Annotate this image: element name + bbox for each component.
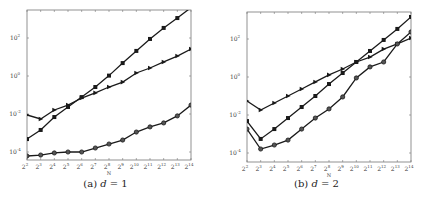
x-tick-label: 24 (49, 162, 56, 170)
circle-marker (409, 30, 413, 34)
square-marker (121, 61, 125, 65)
caption-b-label: (b) (294, 178, 311, 189)
caption-a-label: (a) (83, 178, 100, 189)
circle-marker (245, 127, 249, 131)
triangle-marker (107, 85, 112, 90)
x-tick-label: 210 (130, 162, 139, 170)
x-tick-label: 25 (283, 164, 290, 172)
series-line-circle (27, 105, 191, 156)
circle-marker (368, 65, 372, 69)
x-tick-label: 23 (35, 162, 42, 170)
square-marker (93, 85, 97, 89)
circle-marker (134, 130, 138, 134)
plot-frame (247, 12, 411, 162)
caption-b: (b) d = 2 (211, 178, 422, 189)
x-axis-label: N (107, 170, 112, 176)
x-tick-label: 27 (310, 164, 317, 172)
x-tick-label: 28 (324, 164, 331, 172)
square-marker (107, 74, 111, 78)
circle-marker (121, 138, 125, 142)
square-marker (286, 116, 290, 120)
square-marker (162, 26, 166, 30)
circle-marker (66, 150, 70, 154)
caption-a-value: = 1 (107, 178, 128, 189)
triangle-marker (327, 73, 332, 78)
y-tick-label: 10-4 (9, 147, 21, 155)
y-tick-label: 102 (230, 34, 241, 42)
x-tick-label: 29 (117, 162, 124, 170)
x-tick-label: 26 (296, 164, 303, 172)
triangle-marker (148, 66, 153, 71)
square-marker (189, 6, 193, 10)
circle-marker (39, 153, 43, 157)
chart-panel-a: 2223242526272829210211212213214N10210010… (0, 0, 211, 197)
square-marker (313, 94, 317, 98)
circle-marker (272, 143, 276, 147)
x-tick-label: 28 (104, 162, 111, 170)
circle-marker (107, 142, 111, 146)
square-marker (175, 16, 179, 20)
x-tick-label: 211 (364, 164, 373, 172)
circle-marker (25, 154, 29, 158)
x-tick-label: 26 (76, 162, 83, 170)
y-tick-label: 10-2 (229, 110, 241, 118)
circle-marker (148, 125, 152, 129)
square-marker (382, 38, 386, 42)
circle-marker (300, 127, 304, 131)
triangle-marker (52, 108, 57, 113)
x-tick-label: 24 (269, 164, 276, 172)
series-line-square (247, 17, 411, 139)
x-tick-label: 213 (391, 164, 400, 172)
caption-b-value: = 2 (318, 178, 339, 189)
circle-marker (189, 103, 193, 107)
triangle-marker (134, 71, 139, 76)
square-marker (327, 82, 331, 86)
square-marker (395, 27, 399, 31)
triangle-marker (93, 91, 98, 96)
x-tick-label: 23 (255, 164, 262, 172)
x-tick-label: 211 (144, 162, 153, 170)
x-tick-label: 25 (63, 162, 70, 170)
circle-marker (175, 114, 179, 118)
circle-marker (286, 138, 290, 142)
circle-marker (354, 76, 358, 80)
square-marker (39, 128, 43, 132)
y-tick-label: 102 (10, 33, 21, 41)
y-tick-label: 10-4 (229, 148, 241, 156)
square-marker (134, 49, 138, 53)
square-marker (148, 37, 152, 41)
plot-frame (27, 10, 191, 160)
circle-marker (259, 147, 263, 151)
chart-b-plot: 2223242526272829210211212213214N10210010… (211, 0, 422, 178)
square-marker (259, 137, 263, 141)
series-line-square (27, 8, 191, 139)
triangle-marker (162, 60, 167, 65)
circle-marker (80, 150, 84, 154)
triangle-marker (382, 47, 387, 52)
circle-marker (93, 146, 97, 150)
square-marker (245, 119, 249, 123)
square-marker (368, 49, 372, 53)
x-tick-label: 214 (185, 162, 194, 170)
chart-a-plot: 2223242526272829210211212213214N10210010… (0, 0, 211, 178)
square-marker (52, 115, 56, 119)
square-marker (300, 105, 304, 109)
x-tick-label: 22 (242, 164, 249, 172)
square-marker (341, 71, 345, 75)
square-marker (25, 137, 29, 141)
circle-marker (162, 121, 166, 125)
y-tick-label: 10-2 (9, 109, 21, 117)
x-tick-label: 22 (22, 162, 29, 170)
circle-marker (341, 95, 345, 99)
circle-marker (327, 107, 331, 111)
x-tick-label: 210 (350, 164, 359, 172)
x-tick-label: 212 (377, 164, 386, 172)
circle-marker (313, 116, 317, 120)
x-tick-label: 27 (90, 162, 97, 170)
square-marker (272, 127, 276, 131)
circle-marker (52, 151, 56, 155)
chart-panel-b: 2223242526272829210211212213214N10210010… (211, 0, 422, 197)
series-line-triangle (27, 49, 191, 119)
circle-marker (395, 42, 399, 46)
circle-marker (382, 60, 386, 64)
